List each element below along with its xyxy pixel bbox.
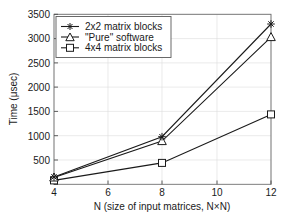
- legend-label-pure: "Pure" software: [85, 32, 154, 43]
- chart-legend[interactable]: 2x2 matrix blocks "Pure" software 4x4 ma…: [56, 17, 171, 58]
- y-tick-label-1000: 1000: [28, 131, 51, 142]
- x-tick-label-8: 8: [159, 187, 165, 198]
- chart-figure: 3500 3000 2500 2000 1500 1000 500 4 6 8 …: [0, 0, 289, 224]
- square-marker-icon: [67, 44, 74, 51]
- y-tick-label-2500: 2500: [28, 58, 51, 69]
- x-tick-label-4: 4: [51, 187, 57, 198]
- legend-label-4x4: 4x4 matrix blocks: [85, 42, 162, 53]
- y-tick-label-3500: 3500: [28, 9, 51, 20]
- data-point-2x2-n4: [50, 173, 58, 181]
- y-tick-label-3000: 3000: [28, 33, 51, 44]
- x-axis-title: N (size of input matrices, N×N): [94, 201, 230, 212]
- x-tick-label-6: 6: [105, 187, 111, 198]
- legend-label-2x2: 2x2 matrix blocks: [85, 21, 162, 32]
- data-point-4x4-n8: [159, 159, 166, 166]
- data-point-2x2-n8: [158, 133, 166, 141]
- y-axis-title: Time (μsec): [8, 73, 19, 126]
- data-point-2x2-n12: [267, 20, 275, 28]
- star-marker-icon: [67, 23, 74, 30]
- y-tick-label-2000: 2000: [28, 82, 51, 93]
- y-tick-label-1500: 1500: [28, 106, 51, 117]
- x-tick-label-12: 12: [265, 187, 277, 198]
- x-tick-label-10: 10: [211, 187, 223, 198]
- data-point-4x4-n12: [268, 111, 275, 118]
- line-chart-svg: 3500 3000 2500 2000 1500 1000 500 4 6 8 …: [0, 0, 289, 224]
- y-tick-label-500: 500: [33, 155, 50, 166]
